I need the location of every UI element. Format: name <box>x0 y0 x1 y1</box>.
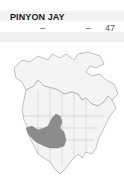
divider-band <box>0 32 124 42</box>
range-map <box>8 50 122 178</box>
